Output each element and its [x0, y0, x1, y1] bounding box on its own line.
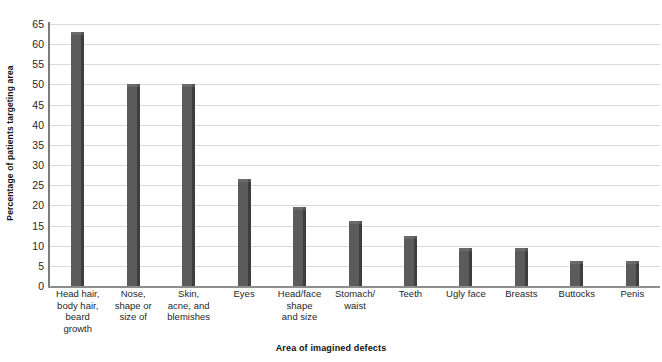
bar	[349, 221, 362, 286]
bar-face	[515, 248, 525, 286]
bar-face	[349, 221, 359, 286]
bar-face	[570, 261, 580, 286]
bar-face	[459, 248, 469, 286]
bar-top-highlight	[515, 248, 525, 251]
y-axis-tick-label: 50	[32, 78, 44, 90]
y-axis-tick-label: 55	[32, 58, 44, 70]
y-axis-tick-label: 10	[32, 240, 44, 252]
y-axis-tick-label: 15	[32, 220, 44, 232]
bar	[626, 261, 639, 286]
bar-top-highlight	[127, 84, 137, 87]
y-axis-tick-label: 60	[32, 38, 44, 50]
x-axis-tick-labels: Head hair, body hair, beard growthNose, …	[50, 288, 660, 340]
y-axis-tick-label: 45	[32, 99, 44, 111]
bar-top-highlight	[459, 248, 469, 251]
y-axis-tick-label: 35	[32, 139, 44, 151]
bar-side-shadow	[636, 264, 639, 286]
y-axis-title-text: Percentage of patients targeting area	[5, 65, 15, 220]
y-axis-tick-labels: 05101520253035404550556065	[20, 0, 48, 290]
bar-top-highlight	[293, 207, 303, 210]
bar-top-highlight	[349, 221, 359, 224]
bar-face	[127, 84, 137, 286]
bar	[404, 236, 417, 286]
bar-top-highlight	[404, 236, 414, 239]
bar-chart-figure: Percentage of patients targeting area 05…	[0, 0, 662, 362]
y-axis-title: Percentage of patients targeting area	[0, 0, 20, 285]
bars-layer	[50, 24, 660, 286]
bar-face	[293, 207, 303, 286]
bar-side-shadow	[81, 35, 84, 286]
bar-side-shadow	[580, 264, 583, 286]
bar-side-shadow	[303, 210, 306, 286]
bar-side-shadow	[525, 251, 528, 286]
bar-side-shadow	[137, 87, 140, 286]
y-axis-tick-label: 5	[38, 260, 44, 272]
bar-face	[626, 261, 636, 286]
x-axis-tick-label: Penis	[600, 288, 662, 300]
bar-side-shadow	[414, 239, 417, 286]
bar-face	[404, 236, 414, 286]
plot-area	[50, 24, 660, 286]
bar	[71, 32, 84, 286]
bar-side-shadow	[192, 87, 195, 286]
y-axis-tick-label: 0	[38, 280, 44, 292]
y-axis-tick-label: 40	[32, 119, 44, 131]
bar	[459, 248, 472, 286]
y-axis-tick-label: 20	[32, 199, 44, 211]
bar-side-shadow	[469, 251, 472, 286]
y-axis-tick-label: 25	[32, 179, 44, 191]
y-axis-tick-label: 65	[32, 18, 44, 30]
bar-face	[71, 32, 81, 286]
bar-top-highlight	[71, 32, 81, 35]
bar	[127, 84, 140, 286]
bar	[515, 248, 528, 286]
bar	[570, 261, 583, 286]
bar	[238, 179, 251, 286]
y-axis-tick-label: 30	[32, 159, 44, 171]
bar-face	[238, 179, 248, 286]
bar-face	[182, 84, 192, 286]
bar-side-shadow	[248, 182, 251, 286]
bar-top-highlight	[182, 84, 192, 87]
bar-top-highlight	[570, 261, 580, 264]
bar	[293, 207, 306, 286]
bar-top-highlight	[626, 261, 636, 264]
bar-top-highlight	[238, 179, 248, 182]
bar	[182, 84, 195, 286]
bar-side-shadow	[359, 224, 362, 286]
x-axis-title: Area of imagined defects	[0, 343, 662, 353]
